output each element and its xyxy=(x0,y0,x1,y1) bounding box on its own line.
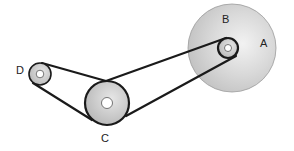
label-a: A xyxy=(260,37,268,49)
label-c: C xyxy=(101,132,109,144)
pulley-b xyxy=(218,38,238,58)
hub-d xyxy=(36,70,44,78)
label-b: B xyxy=(222,13,229,25)
label-d: D xyxy=(16,64,24,76)
pulley-d xyxy=(29,63,51,85)
pulley-diagram: A B C D xyxy=(0,0,294,151)
hub-c xyxy=(102,98,113,109)
hub-b xyxy=(225,45,232,52)
pulley-c xyxy=(85,81,129,125)
